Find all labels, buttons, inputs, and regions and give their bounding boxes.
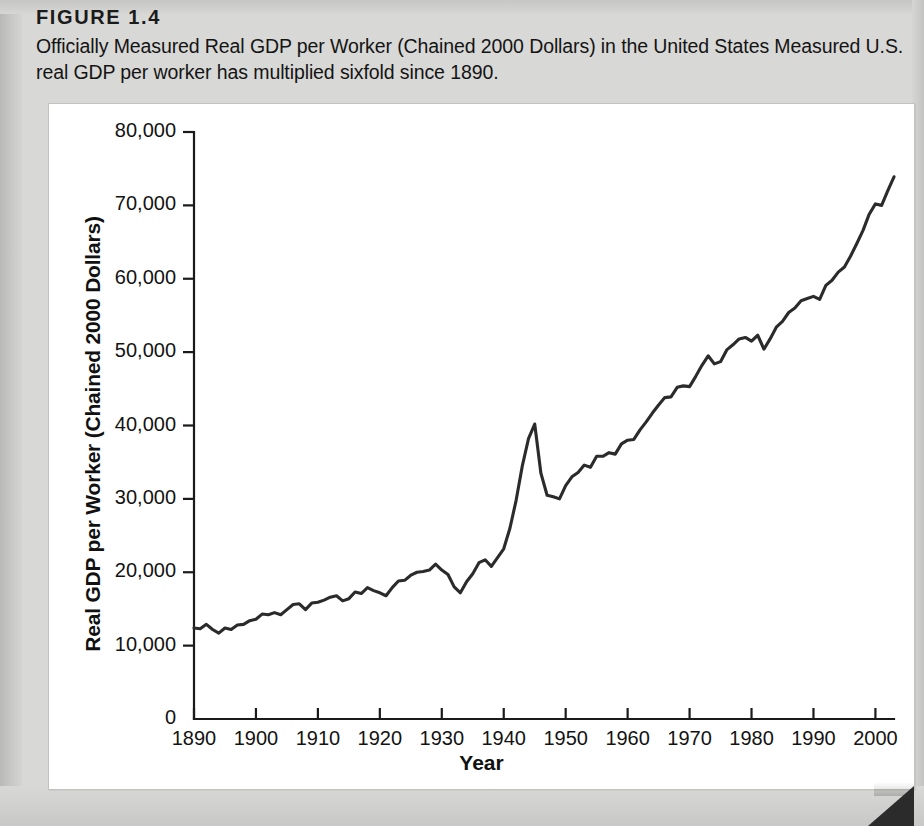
gdp-line-chart [49, 104, 914, 789]
x-axis-ticks [194, 708, 875, 719]
figure-caption-block: FIGURE 1.4 Officially Measured Real GDP … [36, 4, 904, 85]
y-axis-tick-label: 60,000 [49, 266, 176, 289]
x-axis-tick-label: 2000 [835, 727, 915, 750]
y-axis-tick-label: 0 [49, 706, 176, 729]
chart-card: 010,00020,00030,00040,00050,00060,00070,… [48, 103, 915, 790]
y-axis-tick-label: 80,000 [49, 119, 176, 142]
y-axis-tick-label: 40,000 [49, 413, 176, 436]
y-axis-title: Real GDP per Worker (Chained 2000 Dollar… [81, 154, 105, 714]
y-axis-tick-label: 50,000 [49, 339, 176, 362]
figure-number: FIGURE 1.4 [36, 4, 904, 30]
plot-area: 010,00020,00030,00040,00050,00060,00070,… [49, 104, 914, 789]
book-page: FIGURE 1.4 Officially Measured Real GDP … [0, 0, 924, 826]
gdp-per-worker-line [194, 177, 894, 633]
y-axis-ticks [183, 132, 194, 646]
y-axis-tick-label: 70,000 [49, 192, 176, 215]
figure-caption-text: Officially Measured Real GDP per Worker … [36, 33, 904, 85]
axes [194, 132, 894, 719]
y-axis-tick-label: 30,000 [49, 486, 176, 509]
y-axis-tick-label: 20,000 [49, 559, 176, 582]
y-axis-tick-label: 10,000 [49, 633, 176, 656]
page-edge-shading-left [0, 0, 22, 826]
page-edge-shading-bottom [0, 786, 924, 826]
x-axis-title: Year [49, 751, 914, 775]
page-curl-corner [868, 786, 914, 826]
